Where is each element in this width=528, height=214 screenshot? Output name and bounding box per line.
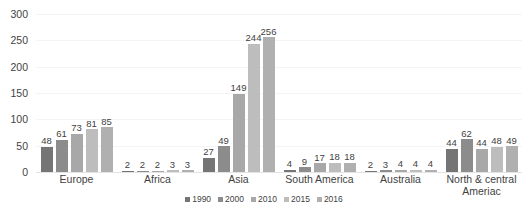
bar[interactable]	[137, 171, 149, 172]
bar-slot: 61	[56, 14, 68, 172]
category-label: Europe	[36, 174, 117, 197]
bar-value-label: 2	[140, 160, 145, 170]
bar-group: 22233	[117, 14, 198, 172]
bar-slot: 62	[461, 14, 473, 172]
bar-value-label: 18	[329, 152, 340, 162]
bar-slot: 244	[248, 14, 260, 172]
bar-slot: 49	[218, 14, 230, 172]
y-axis-tick-label: 50	[16, 140, 28, 151]
bar-value-label: 3	[170, 160, 175, 170]
legend-item[interactable]: 2000	[218, 195, 244, 204]
bar-slot: 73	[71, 14, 83, 172]
legend-item[interactable]: 2016	[317, 195, 343, 204]
y-axis-tick-label: 150	[10, 88, 28, 99]
bar-slot: 2	[122, 14, 134, 172]
bar[interactable]	[56, 140, 68, 172]
bar-value-label: 244	[246, 33, 262, 43]
bar[interactable]	[182, 170, 194, 172]
legend-item[interactable]: 2010	[251, 195, 277, 204]
bar[interactable]	[86, 129, 98, 172]
bar-slot: 48	[41, 14, 53, 172]
bar[interactable]	[476, 149, 488, 172]
bar[interactable]	[152, 171, 164, 172]
bar-slot: 4	[410, 14, 422, 172]
bar-slot: 149	[233, 14, 245, 172]
bar-value-label: 3	[185, 160, 190, 170]
bar-slot: 44	[446, 14, 458, 172]
bar-slot: 18	[344, 14, 356, 172]
bar-value-label: 9	[302, 157, 307, 167]
category-label: North & central Ameriac	[441, 174, 522, 197]
legend-swatch-icon	[251, 197, 256, 202]
category-label: Australia	[360, 174, 441, 197]
bar-slot: 27	[203, 14, 215, 172]
bar[interactable]	[410, 170, 422, 172]
bar-value-label: 4	[398, 159, 403, 169]
legend-swatch-icon	[284, 197, 289, 202]
legend-swatch-icon	[185, 197, 190, 202]
legend-swatch-icon	[218, 197, 223, 202]
bar[interactable]	[41, 147, 53, 172]
bar-value-label: 85	[101, 117, 112, 127]
bar[interactable]	[491, 147, 503, 172]
bar-value-label: 27	[203, 147, 214, 157]
bar[interactable]	[425, 170, 437, 172]
bar[interactable]	[461, 139, 473, 172]
chart-legend: 19902000201020152016	[0, 195, 528, 204]
y-axis-tick-label: 250	[10, 35, 28, 46]
y-axis: 050100150200250300	[0, 14, 32, 172]
bar-value-label: 4	[428, 159, 433, 169]
bar-chart: 050100150200250300 486173818522233274914…	[0, 0, 528, 214]
bar-value-label: 49	[506, 136, 517, 146]
bar-value-label: 44	[446, 138, 457, 148]
bar-value-label: 2	[125, 160, 130, 170]
bar-slot: 3	[182, 14, 194, 172]
bar-slot: 85	[101, 14, 113, 172]
bar-group: 2749149244256	[198, 14, 279, 172]
bar[interactable]	[203, 158, 215, 172]
bar[interactable]	[299, 167, 311, 172]
bar[interactable]	[380, 170, 392, 172]
bar-value-label: 3	[383, 160, 388, 170]
bar[interactable]	[71, 134, 83, 172]
bar[interactable]	[344, 163, 356, 172]
bar[interactable]	[365, 171, 377, 172]
bar-value-label: 2	[368, 160, 373, 170]
bar-slot: 256	[263, 14, 275, 172]
bar[interactable]	[248, 44, 260, 173]
bar-value-label: 48	[491, 136, 502, 146]
bar-slot: 3	[167, 14, 179, 172]
bar[interactable]	[446, 149, 458, 172]
bar-value-label: 62	[461, 129, 472, 139]
bar-value-label: 2	[155, 160, 160, 170]
bar-value-label: 48	[41, 136, 52, 146]
bar[interactable]	[263, 37, 275, 172]
legend-item[interactable]: 2015	[284, 195, 310, 204]
legend-item[interactable]: 1990	[185, 195, 211, 204]
bar[interactable]	[329, 163, 341, 172]
bar-value-label: 81	[86, 119, 97, 129]
y-axis-tick-label: 300	[10, 9, 28, 20]
bar-group: 23444	[360, 14, 441, 172]
bar-slot: 2	[365, 14, 377, 172]
y-axis-tick-label: 200	[10, 61, 28, 72]
bar[interactable]	[395, 170, 407, 172]
bar-group: 49171818	[279, 14, 360, 172]
bar[interactable]	[167, 170, 179, 172]
bar[interactable]	[218, 146, 230, 172]
bar[interactable]	[284, 170, 296, 172]
bar-slot: 49	[506, 14, 518, 172]
bar[interactable]	[101, 127, 113, 172]
bar[interactable]	[122, 171, 134, 172]
legend-swatch-icon	[317, 197, 322, 202]
category-label: Africa	[117, 174, 198, 197]
bar[interactable]	[506, 146, 518, 172]
bar-value-label: 18	[344, 152, 355, 162]
y-axis-tick-label: 100	[10, 114, 28, 125]
bar-value-label: 44	[476, 138, 487, 148]
bar-slot: 4	[284, 14, 296, 172]
bar[interactable]	[233, 94, 245, 172]
bar[interactable]	[314, 163, 326, 172]
bar-value-label: 61	[56, 129, 67, 139]
bar-slot: 2	[152, 14, 164, 172]
